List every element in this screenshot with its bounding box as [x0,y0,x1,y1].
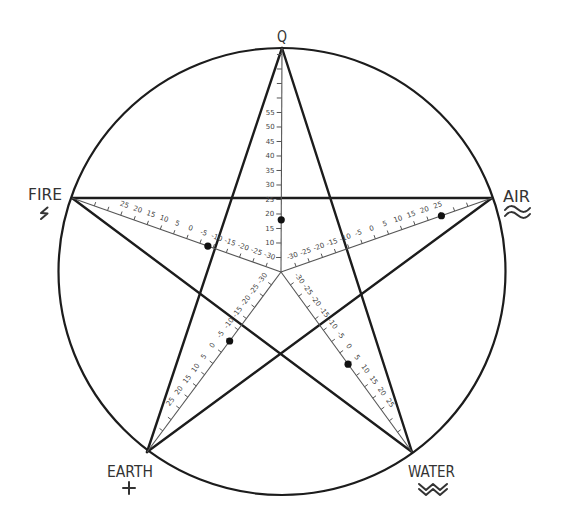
plus-icon [123,482,135,494]
marker-point-earth [226,337,233,344]
scale-tick [467,203,468,207]
scale-tick [323,328,326,330]
scale-tick [266,263,267,267]
scale-tick-label: -30 [293,271,306,285]
scale-tick [201,372,204,374]
scale-tick [295,263,296,267]
scale-tick-label: -5 [335,330,346,340]
scale-tick [373,396,376,398]
scale-tick [200,240,201,244]
scale-tick [268,282,271,284]
scale-tick-label: 45 [266,138,275,146]
scale-tick [160,428,163,430]
scale-tick [340,351,343,353]
scale-tick [361,240,362,244]
scale-tick-label: 50 [266,123,275,131]
scale-fire: -30-25-20-15-10-50510152025 [72,198,281,272]
scale-tick-label: -5 [354,228,363,238]
scale-tick-label: -25 [250,246,263,257]
scale-tick-label: -20 [239,294,252,308]
scale-tick-label: 15 [145,209,156,220]
scale-tick-label: 25 [432,200,443,211]
scale-tick [174,230,175,234]
scale-tick-label: -10 [326,317,339,331]
scale-tick-label: 35 [266,167,275,175]
scale-tick [193,384,196,386]
scale-tick-label: 0 [208,341,217,349]
marker-point-fire [204,243,211,250]
scale-tick [240,254,241,258]
scale-tick [243,316,246,318]
scale-tick [185,395,188,397]
scale-tick-label: 25 [119,200,130,211]
scale-tick-label: -20 [309,294,322,308]
vertex-label-water: WATER [408,462,455,481]
scale-tick-label: -10 [210,232,223,243]
scale-tick [218,350,221,352]
scale-tick-label: 15 [406,209,417,220]
scale-tick [427,217,428,221]
scale-tick [389,418,392,420]
scale-tick-label: -5 [216,329,227,339]
scale-tick-label: 40 [266,152,275,160]
vertex-label-earth: EARTH [107,462,153,481]
scale-tick [134,216,135,220]
scale-tick-label: -15 [223,237,236,248]
scale-tick-label: -5 [199,228,208,238]
scale-tick [387,231,388,235]
scale-tick-label: -30 [263,251,276,262]
scale-tick-label: -25 [299,246,312,257]
scale-tick-label: 15 [265,225,274,233]
scale-tick [398,430,401,432]
scale-tick [168,417,171,419]
scale-tick [321,254,322,258]
scale-tick [334,249,335,253]
scale-air: -30-25-20-15-10-50510152025 [281,198,492,272]
elemental-pentagram-diagram: 10152025303540455055-30-25-20-15-10-5051… [0,0,563,522]
scale-tick [348,244,349,248]
scale-tick-label: 10 [359,363,371,375]
scale-tick-label: 10 [265,239,274,247]
scale-tick-label: 10 [158,214,169,225]
scale-q: 10152025303540455055 [265,48,285,272]
scale-tick-label: 0 [344,342,353,350]
scale-tick-label: 0 [187,224,194,233]
scale-earth: -30-25-20-15-10-50510152025 [147,271,281,452]
scale-tick [374,235,375,239]
scale-tick-label: 55 [266,109,275,117]
scale-tick-label: 10 [393,214,404,225]
scale-tick-label: -15 [231,305,244,319]
scale-water: -30-25-20-15-10-50510152025 [281,271,412,452]
scale-tick [299,294,302,296]
scale-tick [94,202,95,206]
scale-tick [307,305,310,307]
scale-tick-label: 10 [190,362,202,374]
scale-tick-label: 20 [132,204,143,215]
scale-tick-label: 20 [419,205,430,216]
marker-point-water [344,361,351,368]
scale-tick [260,294,263,296]
scale-tick [356,373,359,375]
scale-tick-label: -20 [236,241,249,252]
scale-tick-label: 5 [174,219,181,228]
scale-tick [315,317,318,319]
zigzag-icon [419,484,447,495]
scale-tick [187,235,188,239]
scale-axis-air [281,198,492,272]
scale-tick-label: -30 [256,271,269,285]
scale-tick [308,258,309,262]
scale-tick-label: 5 [200,353,209,361]
scale-tick [210,361,213,363]
scale-axis-fire [72,198,281,272]
scale-tick-label: -25 [248,283,261,297]
scale-tick [226,249,227,253]
scale-tick-label: 20 [376,386,388,398]
scale-tick [290,283,293,285]
scale-tick [365,384,368,386]
scale-tick-label: -30 [286,251,299,262]
marker-point-q [278,216,285,223]
marker-point-air [438,212,445,219]
scale-tick [381,407,384,409]
scale-tick-label: 25 [265,196,274,204]
scale-tick [147,221,148,225]
